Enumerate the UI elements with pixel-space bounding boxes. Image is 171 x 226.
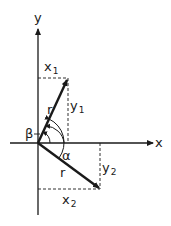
coordinate-diagram: y x x1 y1 r β α r y2 x2 — [0, 0, 171, 226]
r1-label: r — [47, 102, 53, 117]
beta-arc-inner — [43, 132, 50, 143]
y2-label: y2 — [102, 160, 116, 177]
beta-label: β — [25, 126, 33, 141]
x1-label: x1 — [44, 59, 58, 76]
x2-label: x2 — [62, 192, 76, 209]
x-axis-label: x — [155, 135, 163, 150]
r2-label: r — [60, 165, 66, 180]
beta-arc-outer — [46, 126, 64, 143]
alpha-label: α — [62, 148, 71, 163]
y-axis-label: y — [34, 10, 42, 25]
y1-label: y1 — [70, 98, 84, 115]
